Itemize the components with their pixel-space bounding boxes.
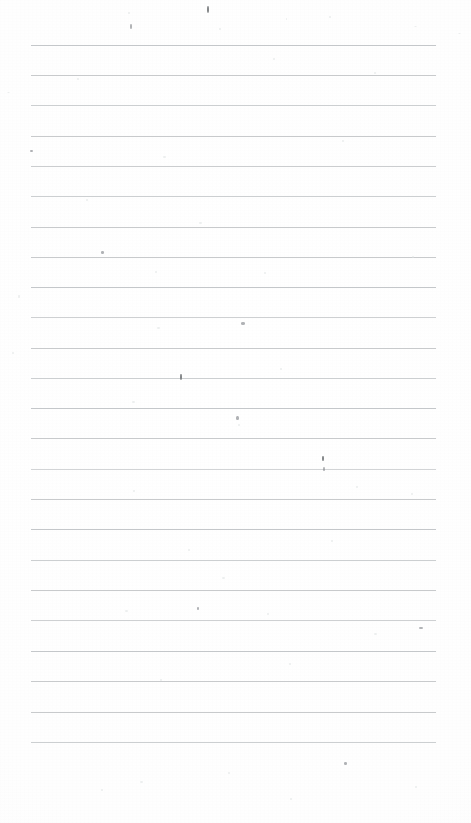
ruled-line <box>31 105 436 106</box>
ruled-line <box>31 378 436 379</box>
ruled-line <box>31 287 436 288</box>
ruled-line <box>31 742 436 743</box>
ruled-line <box>31 227 436 228</box>
ruled-line <box>31 45 436 46</box>
ruled-line <box>31 75 436 76</box>
ruled-lines-group <box>0 0 471 823</box>
ruled-line <box>31 620 436 621</box>
ruled-line <box>31 712 436 713</box>
ruled-line <box>31 469 436 470</box>
ruled-line <box>31 651 436 652</box>
ruled-line <box>31 348 436 349</box>
ruled-line <box>31 438 436 439</box>
ruled-line <box>31 257 436 258</box>
ruled-line <box>31 317 436 318</box>
ruled-line <box>31 408 436 409</box>
ruled-line <box>31 136 436 137</box>
ruled-line <box>31 590 436 591</box>
ruled-line <box>31 681 436 682</box>
ruled-line <box>31 196 436 197</box>
ruled-line <box>31 166 436 167</box>
notebook-page <box>0 0 471 823</box>
ruled-line <box>31 529 436 530</box>
ruled-line <box>31 560 436 561</box>
ruled-line <box>31 499 436 500</box>
